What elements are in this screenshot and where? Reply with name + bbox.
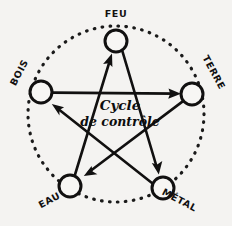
- node-label-feu: FEU: [105, 8, 128, 19]
- node-label-eau: EAU: [37, 190, 63, 211]
- node-feu[interactable]: FEU: [105, 8, 128, 52]
- center-caption-line-1: Cycle: [100, 97, 141, 113]
- center-caption-line-2: de contrôle: [80, 114, 160, 129]
- node-bois[interactable]: BOIS: [7, 57, 52, 103]
- node-metal[interactable]: MÉTAL: [152, 177, 199, 214]
- node-label-bois: BOIS: [7, 57, 30, 87]
- center-caption: Cycle de contrôle: [80, 97, 160, 129]
- node-label-terre: TERRE: [201, 53, 228, 91]
- control-cycle-diagram: FEU TERRE MÉTAL EAU BOIS Cycle de contrô…: [0, 0, 232, 226]
- diagram-canvas: FEU TERRE MÉTAL EAU BOIS Cycle de contrô…: [0, 0, 232, 226]
